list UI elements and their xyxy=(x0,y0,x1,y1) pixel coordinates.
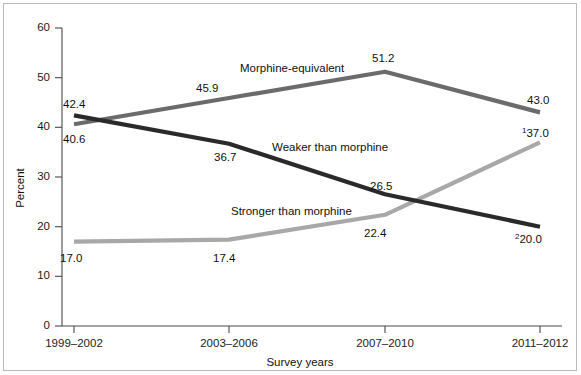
line-chart-canvas: 60 50 40 30 20 10 0 Percent 1999–2002 20… xyxy=(0,0,581,375)
value-label-stronger-2011-2012: 137.0 xyxy=(522,126,549,140)
y-tick-label-60: 60 xyxy=(37,21,50,33)
series-label-weaker-than-morphine: Weaker than morphine xyxy=(272,141,388,153)
value-label-morphine-2007-2010: 51.2 xyxy=(372,52,394,64)
value-label-weaker-2003-2006: 36.7 xyxy=(214,151,236,163)
y-tick-label-40: 40 xyxy=(37,120,50,132)
series-stronger-than-morphine xyxy=(74,142,540,241)
chart-figure: 60 50 40 30 20 10 0 Percent 1999–2002 20… xyxy=(0,0,581,375)
value-label-stronger-2003-2006: 17.4 xyxy=(213,252,236,264)
x-tick-label-2003-2006: 2003–2006 xyxy=(200,337,258,349)
x-tick-label-1999-2002: 1999–2002 xyxy=(45,337,103,349)
x-axis-title: Survey years xyxy=(266,356,333,368)
x-tick-label-2007-2010: 2007–2010 xyxy=(356,337,414,349)
x-tick-label-2011-2012: 2011–2012 xyxy=(512,337,569,349)
value-label-weaker-2011-2012: 220.0 xyxy=(515,232,542,246)
y-tick-label-50: 50 xyxy=(37,71,50,83)
y-tick-label-20: 20 xyxy=(37,220,50,232)
y-axis: 60 50 40 30 20 10 0 Percent xyxy=(14,21,62,331)
value-label-morphine-2011-2012: 43.0 xyxy=(527,94,549,106)
value-label-morphine-1999-2002: 40.6 xyxy=(63,133,85,145)
y-tick-label-30: 30 xyxy=(37,170,50,182)
value-label-weaker-2011-2012-value: 20.0 xyxy=(519,233,541,245)
value-label-stronger-2007-2010: 22.4 xyxy=(364,227,387,239)
series-line-stronger-than-morphine xyxy=(74,142,540,241)
series-morphine-equivalent xyxy=(74,72,540,125)
value-label-stronger-1999-2002: 17.0 xyxy=(60,252,82,264)
series-label-stronger-than-morphine: Stronger than morphine xyxy=(231,205,352,217)
value-label-weaker-1999-2002: 42.4 xyxy=(63,98,86,110)
x-axis: 1999–2002 2003–2006 2007–2010 2011–2012 … xyxy=(45,326,568,368)
value-label-stronger-2011-2012-value: 37.0 xyxy=(526,127,548,139)
value-label-morphine-2003-2006: 45.9 xyxy=(196,82,218,94)
y-tick-label-10: 10 xyxy=(37,269,50,281)
y-tick-label-0: 0 xyxy=(44,319,50,331)
series-line-morphine-equivalent xyxy=(74,72,540,125)
value-label-weaker-2007-2010: 26.5 xyxy=(370,180,392,192)
y-axis-title: Percent xyxy=(14,167,26,207)
series-label-morphine-equivalent: Morphine-equivalent xyxy=(240,62,345,74)
